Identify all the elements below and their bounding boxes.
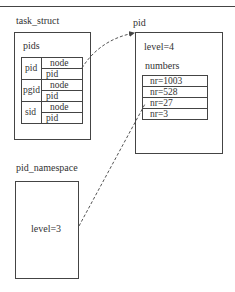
pid-link-arrow	[82, 33, 134, 68]
namespace-link-line	[79, 104, 145, 226]
connectors	[0, 0, 235, 292]
